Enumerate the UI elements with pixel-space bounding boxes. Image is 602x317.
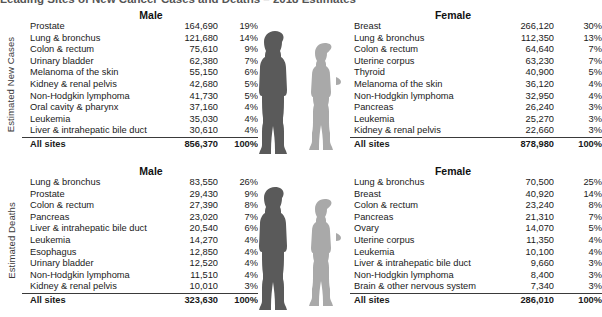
- table-row-total: All sites286,010100%: [350, 293, 602, 307]
- table-body: Breast266,12030%Lung & bronchus112,35013…: [350, 21, 602, 151]
- table-body: Lung & bronchus70,50025%Breast40,92014%C…: [350, 177, 602, 307]
- table-row: Colon & rectum23,2408%: [350, 200, 602, 212]
- cell-percent: 3%: [554, 102, 602, 114]
- cell-percent: 4%: [554, 91, 602, 103]
- cell-count: 41,730: [168, 91, 218, 103]
- cell-site: Melanoma of the skin: [350, 79, 502, 91]
- table-row: Lung & bronchus70,50025%: [350, 177, 602, 189]
- infographic-page: Leading Sites of New Cancer Cases and De…: [0, 0, 602, 317]
- cell-percent: 3%: [554, 281, 602, 293]
- cell-count: 20,540: [168, 223, 218, 235]
- table-row: Liver & intrahepatic bile duct9,6603%: [350, 258, 602, 270]
- cell-percent: 7%: [554, 212, 602, 224]
- silhouette-pair-deaths: [250, 177, 350, 313]
- table-row: Leukemia14,2704%: [22, 235, 258, 247]
- cell-percent: 3%: [554, 270, 602, 282]
- table-row: Non-Hodgkin lymphoma11,5104%: [22, 270, 258, 282]
- cell-site: Leukemia: [22, 114, 168, 126]
- section-label-new-cases-text: Estimated New Cases: [6, 37, 17, 132]
- male-silhouette: [255, 29, 297, 157]
- cell-site: Colon & rectum: [350, 200, 502, 212]
- cell-count: 27,390: [168, 200, 218, 212]
- table-row: Brain & other nervous system7,3403%: [350, 281, 602, 293]
- cell-percent: 5%: [554, 67, 602, 79]
- cell-count: 10,010: [168, 281, 218, 293]
- cell-site: Pancreas: [22, 212, 168, 224]
- table-female-deaths: Lung & bronchus70,50025%Breast40,92014%C…: [350, 177, 602, 307]
- table-row: Ovary14,0705%: [350, 223, 602, 235]
- section-label-deaths: Estimated Deaths: [0, 163, 22, 317]
- cell-count: 11,350: [502, 235, 554, 247]
- table-row: Colon & rectum64,6407%: [350, 44, 602, 56]
- table-row: Colon & rectum27,3908%: [22, 200, 258, 212]
- cell-site: Breast: [350, 21, 502, 33]
- cell-count: 63,230: [502, 56, 554, 68]
- section-label-new-cases: Estimated New Cases: [0, 7, 22, 162]
- table-male-deaths: Lung & bronchus83,55026%Prostate29,4309%…: [22, 177, 258, 307]
- cell-count: 12,520: [168, 258, 218, 270]
- table-row: Non-Hodgkin lymphoma32,9504%: [350, 91, 602, 103]
- cell-site: Liver & intrahepatic bile duct: [350, 258, 502, 270]
- table-row: Liver & intrahepatic bile duct20,5406%: [22, 223, 258, 235]
- table-row: Urinary bladder62,3807%: [22, 56, 258, 68]
- cell-site: Pancreas: [350, 102, 502, 114]
- panels-deaths: Male Lung & bronchus83,55026%Prostate29,…: [22, 163, 602, 317]
- cell-site: Ovary: [350, 223, 502, 235]
- cell-count: 32,950: [502, 91, 554, 103]
- table-row-total: All sites323,630100%: [22, 293, 258, 307]
- cell-site: Urinary bladder: [22, 56, 168, 68]
- cell-count: 11,510: [168, 270, 218, 282]
- cell-site: Prostate: [22, 189, 168, 201]
- male-silhouette: [255, 185, 297, 313]
- cell-site: Colon & rectum: [22, 200, 168, 212]
- cell-count: 26,240: [502, 102, 554, 114]
- section-estimated-new-cases: Estimated New Cases Male Prostate164,690…: [0, 7, 602, 162]
- cell-site: Thyroid: [350, 67, 502, 79]
- section-estimated-deaths: Estimated Deaths Male Lung & bronchus83,…: [0, 163, 602, 317]
- cell-count: 14,070: [502, 223, 554, 235]
- cell-percent: 100%: [554, 293, 602, 307]
- cell-count: 36,120: [502, 79, 554, 91]
- cell-site: Uterine corpus: [350, 56, 502, 68]
- table-row-total: All sites856,370100%: [22, 137, 258, 151]
- cell-site: Prostate: [22, 21, 168, 33]
- table-row: Esophagus12,8504%: [22, 247, 258, 259]
- cell-count: 22,660: [502, 125, 554, 137]
- cell-site: Pancreas: [350, 212, 502, 224]
- cell-count: 35,030: [168, 114, 218, 126]
- cell-site: All sites: [22, 137, 168, 151]
- cell-count: 23,240: [502, 200, 554, 212]
- cell-percent: 4%: [554, 79, 602, 91]
- cell-site: Brain & other nervous system: [350, 281, 502, 293]
- table-body: Lung & bronchus83,55026%Prostate29,4309%…: [22, 177, 258, 307]
- female-silhouette: [307, 197, 345, 313]
- cell-site: All sites: [350, 293, 502, 307]
- column-header-female: Female: [350, 163, 602, 177]
- table-row: Melanoma of the skin55,1506%: [22, 67, 258, 79]
- table-row: Leukemia10,1004%: [350, 247, 602, 259]
- cell-percent: 100%: [554, 137, 602, 151]
- cell-count: 164,690: [168, 21, 218, 33]
- cell-percent: 14%: [554, 189, 602, 201]
- cell-count: 12,850: [168, 247, 218, 259]
- cell-site: Leukemia: [350, 247, 502, 259]
- chart-title-strip: Leading Sites of New Cancer Cases and De…: [0, 0, 602, 7]
- table-row: Colon & rectum75,6109%: [22, 44, 258, 56]
- table-row: Leukemia25,2703%: [350, 114, 602, 126]
- cell-count: 25,270: [502, 114, 554, 126]
- cell-count: 8,400: [502, 270, 554, 282]
- cell-count: 7,340: [502, 281, 554, 293]
- cell-site: Non-Hodgkin lymphoma: [22, 91, 168, 103]
- female-silhouette: [307, 41, 345, 157]
- column-header-male: Male: [22, 7, 250, 21]
- cell-percent: 4%: [554, 235, 602, 247]
- cell-count: 70,500: [502, 177, 554, 189]
- cell-count: 30,610: [168, 125, 218, 137]
- table-row: Kidney & renal pelvis22,6603%: [350, 125, 602, 137]
- table-row: Pancreas21,3107%: [350, 212, 602, 224]
- cell-count: 266,120: [502, 21, 554, 33]
- panel-male-new-cases: Male Prostate164,69019%Lung & bronchus12…: [22, 7, 250, 162]
- cell-count: 37,160: [168, 102, 218, 114]
- cell-site: Colon & rectum: [22, 44, 168, 56]
- cell-percent: 7%: [554, 44, 602, 56]
